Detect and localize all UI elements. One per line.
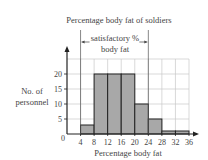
x-tick-label: 8 xyxy=(92,138,96,147)
x-tick-label: 20 xyxy=(131,138,139,147)
x-tick-label: 12 xyxy=(104,138,112,147)
x-tick-label: 16 xyxy=(117,138,125,147)
histogram-bar xyxy=(81,125,95,134)
y-tick-label: 20 xyxy=(54,70,62,79)
histogram-plot: 048121620242832365101520 xyxy=(0,0,208,160)
x-tick-label: 32 xyxy=(171,138,179,147)
right-arrow-icon xyxy=(144,41,147,44)
histogram-bar xyxy=(121,74,135,134)
histogram-bar xyxy=(148,119,162,134)
y-tick-label: 5 xyxy=(58,115,62,124)
histogram-bar xyxy=(135,104,149,134)
x-tick-label: 4 xyxy=(79,138,83,147)
histogram-bar xyxy=(108,74,122,134)
y-axis-arrow-icon xyxy=(65,46,70,52)
x-tick-label: 36 xyxy=(185,138,193,147)
x-tick-label: 24 xyxy=(144,138,152,147)
x-tick-label: 0 xyxy=(61,134,65,143)
histogram-bar xyxy=(94,74,108,134)
x-axis-arrow-icon xyxy=(193,132,199,137)
y-tick-label: 15 xyxy=(54,85,62,94)
x-tick-label: 28 xyxy=(158,138,166,147)
left-arrow-icon xyxy=(82,41,85,44)
y-tick-label: 10 xyxy=(54,100,62,109)
